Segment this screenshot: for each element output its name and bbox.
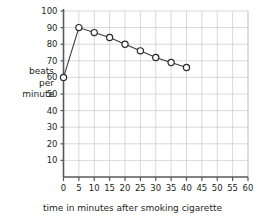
chart-plot: 102030405060708090100 051015202530354045… (0, 0, 265, 224)
svg-text:60: 60 (243, 183, 254, 193)
y-axis-title-line-2: per (2, 78, 54, 90)
svg-text:50: 50 (212, 183, 223, 193)
x-axis-title: time in minutes after smoking cigarette (0, 203, 265, 213)
chart-container: beats per minute 102030405060708090100 0… (0, 0, 265, 224)
svg-text:55: 55 (227, 183, 238, 193)
svg-text:0: 0 (61, 183, 66, 193)
svg-text:45: 45 (196, 183, 207, 193)
svg-text:20: 20 (120, 183, 131, 193)
svg-text:70: 70 (47, 56, 58, 66)
svg-text:40: 40 (181, 183, 192, 193)
y-axis-title: beats per minute (2, 66, 54, 101)
svg-text:10: 10 (89, 183, 100, 193)
svg-text:90: 90 (47, 23, 58, 33)
svg-text:30: 30 (150, 183, 161, 193)
svg-text:5: 5 (76, 183, 81, 193)
svg-text:100: 100 (41, 6, 57, 16)
svg-text:35: 35 (166, 183, 177, 193)
y-axis-title-line-1: beats (2, 66, 54, 78)
y-axis-title-line-3: minute (2, 89, 54, 101)
svg-text:40: 40 (47, 106, 58, 116)
svg-text:25: 25 (135, 183, 146, 193)
x-axis-tick-labels: 051015202530354045505560 (61, 183, 254, 193)
svg-text:15: 15 (104, 183, 115, 193)
svg-text:10: 10 (47, 155, 58, 165)
svg-text:30: 30 (47, 122, 58, 132)
svg-text:20: 20 (47, 139, 58, 149)
svg-text:80: 80 (47, 39, 58, 49)
